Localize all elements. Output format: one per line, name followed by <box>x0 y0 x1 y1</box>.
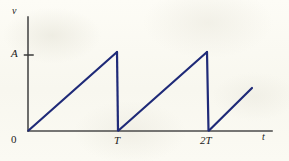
x-axis-label: t <box>262 132 265 142</box>
drop-segment-1 <box>117 52 118 131</box>
ramp-segment-3-partial <box>209 88 252 131</box>
y-axis-label: v <box>12 6 16 16</box>
y-tick-label-amplitude: A <box>11 48 18 59</box>
origin-label: 0 <box>11 134 17 145</box>
ramp-segment-1 <box>29 52 118 131</box>
plot-canvas <box>0 0 289 161</box>
ramp-segment-2 <box>119 52 208 131</box>
sawtooth-waveform-trace <box>29 52 253 131</box>
sawtooth-waveform-figure: v t A 0 T 2T <box>0 0 289 161</box>
drop-segment-2 <box>207 52 209 131</box>
x-tick-label-period: T <box>114 135 120 146</box>
x-tick-label-two-periods: 2T <box>200 135 212 146</box>
